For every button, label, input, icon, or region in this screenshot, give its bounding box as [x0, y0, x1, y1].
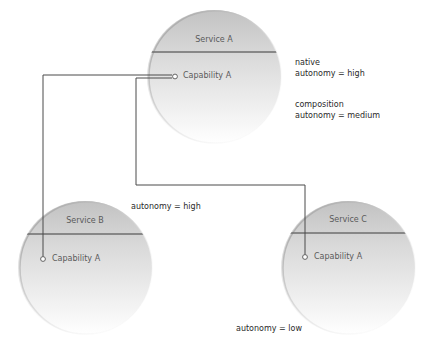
capability-a-dot-service-c	[303, 255, 308, 260]
service-c-title: Service C	[308, 215, 388, 224]
diagram-canvas	[0, 0, 424, 350]
capability-a-dot-service-b	[41, 257, 46, 262]
service-a-capability-label: Capability A	[183, 71, 231, 80]
service-c-capability-label: Capability A	[314, 252, 362, 261]
service-b-capability-label: Capability A	[52, 254, 100, 263]
service-a-title: Service A	[174, 35, 254, 44]
native-autonomy-label: autonomy = high	[295, 68, 365, 79]
capability-a-dot-service-a	[173, 74, 178, 79]
service-b-autonomy-label: autonomy = high	[131, 201, 201, 212]
composition-autonomy-label: autonomy = medium	[295, 110, 380, 121]
service-c-autonomy-label: autonomy = low	[236, 323, 302, 334]
composition-label: composition	[295, 99, 344, 110]
native-label: native	[295, 57, 320, 68]
service-b-title: Service B	[45, 216, 125, 225]
